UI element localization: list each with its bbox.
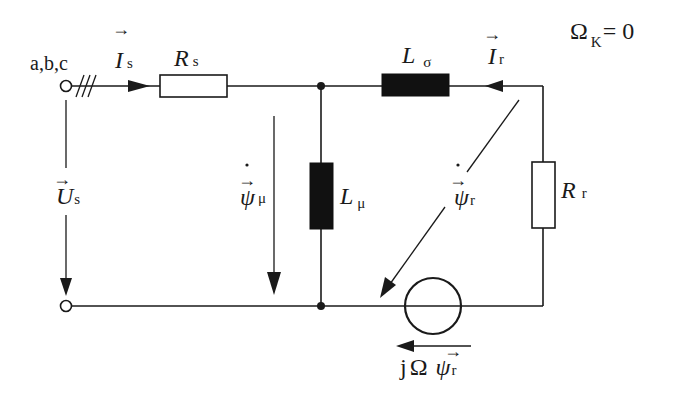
svg-text:Is: Is xyxy=(114,47,133,73)
magnetizing-inductor-Lmu xyxy=(310,163,333,229)
svg-text:Us: Us xyxy=(56,183,80,209)
svg-text:ψμ: ψμ xyxy=(240,184,266,210)
svg-text:jΩψr: jΩψr xyxy=(399,354,456,380)
stator-current-label: → Is xyxy=(112,19,133,73)
leakage-inductor-Lsigma xyxy=(382,74,449,96)
arrow-left-icon xyxy=(396,340,414,352)
svg-text:ψr: ψr xyxy=(454,184,475,210)
rotor-current-arrow-icon xyxy=(485,80,503,92)
equivalent-circuit-diagram: ΩK= 0 a,b,c → Is Rs Lσ → Ir → Us → ψμ Lμ… xyxy=(0,0,673,401)
rotating-frame-condition: ΩK= 0 xyxy=(570,18,634,50)
junction-node-bottom xyxy=(317,302,325,310)
rotor-flux-label: → ψr xyxy=(449,163,475,210)
arrow-diagonal-icon xyxy=(380,277,396,298)
stator-current-arrow-icon xyxy=(128,80,150,92)
magnetizing-inductance-label: Lμ xyxy=(339,183,365,211)
terminal-top xyxy=(61,81,72,92)
rotor-current-label: → Ir xyxy=(483,24,504,69)
arrow-down-icon xyxy=(60,278,72,296)
rotor-resistor-Rr xyxy=(532,162,555,228)
stator-resistor-Rs xyxy=(160,75,227,97)
rotor-flux-arrow xyxy=(380,100,519,298)
arrow-down-icon xyxy=(267,272,281,295)
magnetizing-flux-arrow xyxy=(267,116,281,295)
svg-text:→: → xyxy=(483,24,501,44)
svg-text:→: → xyxy=(112,19,130,39)
stator-voltage-label: → Us xyxy=(53,169,80,209)
terminal-label: a,b,c xyxy=(30,52,68,74)
stator-resistance-label: Rs xyxy=(173,45,199,71)
svg-text:Ir: Ir xyxy=(487,43,504,69)
magnetizing-flux-label: → ψμ xyxy=(238,163,266,210)
rotor-resistance-label: Rr xyxy=(560,177,587,203)
leakage-inductance-label: Lσ xyxy=(401,42,431,70)
terminal-bottom xyxy=(61,301,72,312)
junction-node-top xyxy=(317,82,325,90)
